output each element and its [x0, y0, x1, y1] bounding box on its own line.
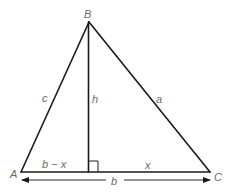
segment-label-b-minus-x: b − x [42, 158, 67, 170]
vertex-label-b: B [84, 8, 91, 20]
right-angle-marker [89, 161, 99, 172]
base-label-b: b [111, 175, 117, 187]
side-label-c: c [42, 92, 48, 104]
vertex-label-c: C [214, 171, 222, 183]
segment-label-x: x [144, 159, 151, 171]
vertex-label-a: A [9, 168, 17, 180]
side-a [89, 22, 210, 172]
triangle-diagram: B A C c h a b − x x b [0, 0, 232, 193]
side-c [21, 22, 89, 172]
side-label-a: a [156, 93, 162, 105]
side-label-h: h [92, 93, 98, 105]
